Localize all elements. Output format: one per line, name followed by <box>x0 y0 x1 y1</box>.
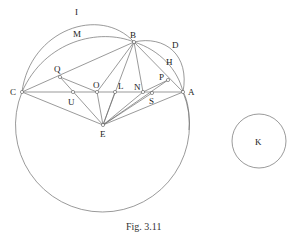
point-E <box>101 123 104 126</box>
label-A: A <box>188 87 195 97</box>
label-I: I <box>75 7 78 17</box>
label-C: C <box>10 87 16 97</box>
point-C <box>20 90 23 93</box>
label-P: P <box>159 72 164 82</box>
label-S: S <box>149 96 154 106</box>
line-NP <box>143 80 168 92</box>
label-K: K <box>255 137 262 147</box>
large-circle <box>15 92 189 212</box>
geometry-diagram: I M B D H Q C U O L N P S A E K Fig. 3.1… <box>0 0 294 238</box>
line-ES <box>103 93 152 125</box>
point-U <box>71 90 74 93</box>
label-N: N <box>134 82 141 92</box>
label-E: E <box>100 129 106 139</box>
label-Q: Q <box>54 64 61 74</box>
point-P <box>166 78 169 81</box>
point-B <box>132 40 135 43</box>
point-O <box>95 90 98 93</box>
point-N <box>141 90 144 93</box>
point-L <box>113 90 116 93</box>
label-B: B <box>130 30 136 40</box>
line-BO <box>97 42 134 92</box>
label-M: M <box>73 29 81 39</box>
line-QO <box>60 77 97 92</box>
figure-caption: Fig. 3.11 <box>126 221 161 232</box>
point-S <box>150 91 153 94</box>
label-U: U <box>68 97 75 107</box>
point-Q <box>58 75 61 78</box>
line-CE <box>22 92 103 125</box>
line-EO <box>97 92 103 125</box>
label-L: L <box>118 81 124 91</box>
label-O: O <box>93 80 100 90</box>
label-D: D <box>172 40 179 50</box>
point-A <box>181 90 184 93</box>
label-H: H <box>166 57 173 67</box>
